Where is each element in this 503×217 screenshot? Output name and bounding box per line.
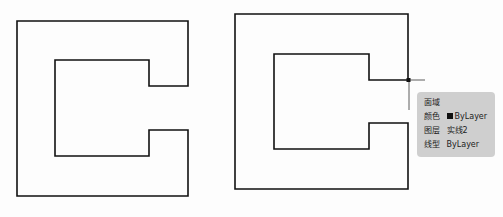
right-c-shape-region[interactable]	[235, 14, 408, 189]
tooltip-key: 图层	[424, 124, 444, 138]
tooltip-row-color: 颜色 ByLayer	[424, 110, 495, 124]
tooltip-key: 颜色	[424, 110, 444, 124]
color-swatch-icon	[447, 113, 453, 119]
left-c-shape[interactable]	[17, 21, 188, 196]
tooltip-key: 线型	[424, 138, 444, 152]
tooltip-row-linetype: 线型 ByLayer	[424, 138, 495, 152]
tooltip-value: 实线2	[447, 126, 468, 135]
tooltip-value: ByLayer	[447, 140, 480, 149]
tooltip-row-layer: 图层 实线2	[424, 124, 495, 138]
rollover-tooltip: 面域 颜色 ByLayer 图层 实线2 线型 ByLayer	[417, 92, 495, 157]
tooltip-title: 面域	[424, 96, 495, 110]
drawing-canvas[interactable]: 面域 颜色 ByLayer 图层 实线2 线型 ByLayer	[0, 0, 503, 217]
tooltip-value: ByLayer	[455, 112, 488, 121]
